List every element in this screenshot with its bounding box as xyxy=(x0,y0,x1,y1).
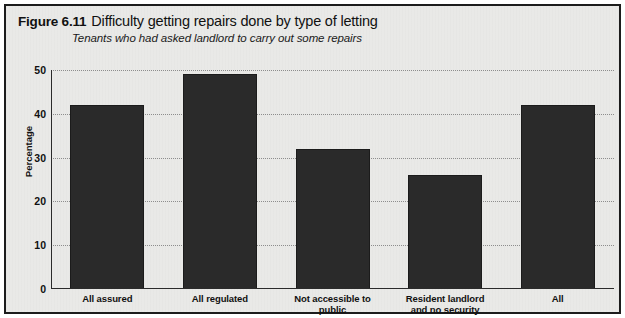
plot-area xyxy=(51,70,614,289)
x-tick-label-line: All assured xyxy=(51,293,164,304)
x-tick-label: All assured xyxy=(51,293,164,304)
figure-subtitle: Tenants who had asked landlord to carry … xyxy=(72,32,362,44)
x-tick-label: All regulated xyxy=(164,293,277,304)
y-tick-label: 10 xyxy=(16,239,46,251)
y-tick-label: 30 xyxy=(16,152,46,164)
figure-root: Figure 6.11Difficulty getting repairs do… xyxy=(0,0,625,318)
x-tick-label-line: All regulated xyxy=(164,293,277,304)
x-axis-line xyxy=(51,288,614,289)
y-axis-line xyxy=(51,70,52,289)
x-tick-label-line: and no security xyxy=(389,304,502,315)
x-tick-label-line: Resident landlord xyxy=(389,293,502,304)
figure-frame: Figure 6.11Difficulty getting repairs do… xyxy=(4,4,621,314)
x-tick-label-line: All xyxy=(501,293,614,304)
y-axis-tick-labels: 01020304050 xyxy=(14,70,46,289)
figure-number: Figure 6.11 xyxy=(18,14,86,29)
bar xyxy=(296,149,370,289)
x-axis-tick-labels: All assuredAll regulatedNot accessible t… xyxy=(51,293,614,318)
x-tick-label-line: Not accessible to xyxy=(276,293,389,304)
x-tick-label-line: public xyxy=(276,304,389,315)
figure-panel: Figure 6.11Difficulty getting repairs do… xyxy=(6,6,619,312)
page-title: Difficulty getting repairs done by type … xyxy=(91,13,377,29)
x-tick-label: Resident landlordand no security xyxy=(389,293,502,315)
y-tick-label: 0 xyxy=(16,283,46,295)
bar xyxy=(70,105,144,289)
bar xyxy=(183,74,257,289)
bar xyxy=(521,105,595,289)
x-tick-label: All xyxy=(501,293,614,304)
y-tick-label: 20 xyxy=(16,195,46,207)
figure-title-row: Figure 6.11Difficulty getting repairs do… xyxy=(18,12,609,30)
bar xyxy=(408,175,482,289)
bars-layer xyxy=(51,70,614,289)
y-tick-label: 50 xyxy=(16,64,46,76)
x-tick-label: Not accessible topublic xyxy=(276,293,389,315)
y-tick-label: 40 xyxy=(16,108,46,120)
